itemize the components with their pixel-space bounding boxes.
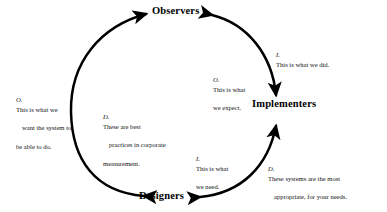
edge-label-tag: O.: [16, 96, 22, 103]
edge-label-line-1: This is what: [213, 86, 245, 93]
edge-label-designers-systems: D. These systems are the most appropriat…: [268, 155, 386, 211]
edge-label-line-1: This is what: [196, 165, 228, 172]
edge-label-line-3: measurement.: [103, 159, 189, 168]
node-designers[interactable]: Designers: [139, 190, 184, 201]
edge-label-tag: I.: [276, 51, 280, 58]
diagram-canvas: Observers Implementers Designers O. This…: [0, 0, 387, 212]
edge-label-designers-best-practices: D. These are best practices in corporate…: [103, 103, 189, 178]
edge-label-line-3: be able to do.: [16, 142, 94, 151]
edge-label-line-2: we expect.: [213, 103, 285, 112]
node-observers[interactable]: Observers: [152, 5, 199, 16]
edge-label-tag: O.: [213, 76, 219, 83]
edge-label-line-2: appropriate, for your needs.: [268, 192, 386, 201]
edge-label-tag: I.: [196, 155, 200, 162]
edge-label-line-2: we need.: [196, 182, 268, 191]
edge-label-implementers-need: I. This is what we need.: [196, 145, 268, 201]
edge-label-tag: D.: [103, 113, 109, 120]
edge-label-line-1: These are best: [103, 123, 141, 130]
edge-label-tag: D.: [268, 165, 274, 172]
edge-label-observers-expect: O. This is what we expect.: [213, 66, 285, 122]
edge-label-line-2: want the system to: [16, 123, 94, 132]
edge-label-line-1: These systems are the most: [268, 175, 340, 182]
edge-label-line-1: This is what we: [16, 106, 58, 113]
edge-label-line-2: practices in corporate: [103, 140, 189, 149]
edge-label-observers-want: O. This is what we want the system to be…: [16, 86, 94, 161]
edge-label-implementers-did: I. This is what we did.: [276, 41, 381, 78]
